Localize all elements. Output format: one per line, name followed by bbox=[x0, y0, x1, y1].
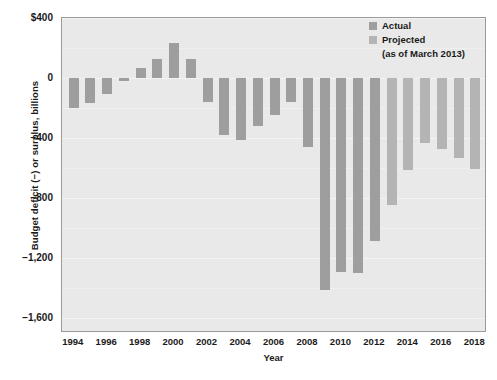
bar-2004 bbox=[236, 78, 246, 140]
x-axis-tick-label: 2008 bbox=[296, 336, 317, 347]
x-axis-tick-label: 2012 bbox=[363, 336, 384, 347]
bar-2013 bbox=[387, 78, 397, 205]
x-axis-tick-label: 2006 bbox=[263, 336, 284, 347]
x-axis-tick-label: 2002 bbox=[196, 336, 217, 347]
legend-swatch-icon bbox=[369, 22, 377, 30]
x-axis-tick-label: 2016 bbox=[430, 336, 451, 347]
y-axis-tick-label: −1,200 bbox=[0, 252, 53, 263]
bar-2005 bbox=[253, 78, 263, 126]
y-axis-tick-label: −400 bbox=[0, 132, 53, 143]
y-axis-tick-label: −1,600 bbox=[0, 312, 53, 323]
legend-item-projected: Projected bbox=[369, 34, 465, 46]
x-axis-tick-label: 2018 bbox=[464, 336, 485, 347]
bar-1997 bbox=[119, 78, 129, 81]
gridline bbox=[62, 198, 485, 199]
bar-2015 bbox=[420, 78, 430, 143]
gridline-minor bbox=[62, 288, 485, 289]
legend-note: (as of March 2013) bbox=[382, 48, 465, 60]
x-axis-tick-label: 1996 bbox=[96, 336, 117, 347]
gridline bbox=[62, 318, 485, 319]
x-axis-title: Year bbox=[61, 352, 486, 363]
bar-2010 bbox=[336, 78, 346, 272]
bar-2008 bbox=[303, 78, 313, 147]
gridline-minor bbox=[62, 168, 485, 169]
bar-2001 bbox=[186, 59, 196, 78]
bar-2000 bbox=[169, 43, 179, 78]
bar-2009 bbox=[320, 78, 330, 290]
x-axis-tick-label: 2000 bbox=[163, 336, 184, 347]
bar-1998 bbox=[136, 68, 146, 78]
bar-2006 bbox=[270, 78, 280, 115]
y-axis-tick-label: $400 bbox=[0, 12, 53, 23]
x-axis-tick-label: 1994 bbox=[62, 336, 83, 347]
bar-2007 bbox=[286, 78, 296, 102]
bar-2018 bbox=[470, 78, 480, 169]
gridline bbox=[62, 18, 485, 19]
legend-label: Actual bbox=[382, 20, 411, 32]
legend-label: Projected bbox=[382, 34, 425, 46]
bar-2011 bbox=[353, 78, 363, 273]
bar-1999 bbox=[152, 59, 162, 78]
y-axis-tick-label: −800 bbox=[0, 192, 53, 203]
bar-2016 bbox=[437, 78, 447, 149]
bar-1994 bbox=[69, 78, 79, 108]
x-axis-tick-label: 2014 bbox=[397, 336, 418, 347]
x-axis-tick-labels: 1994199619982000200220042006200820102012… bbox=[61, 336, 486, 352]
bar-2002 bbox=[203, 78, 213, 102]
gridline-minor bbox=[62, 228, 485, 229]
bar-2003 bbox=[219, 78, 229, 135]
bar-2017 bbox=[454, 78, 464, 158]
legend-swatch-icon bbox=[369, 36, 377, 44]
y-axis-tick-label: 0 bbox=[0, 72, 53, 83]
x-axis-tick-label: 1998 bbox=[129, 336, 150, 347]
bar-2014 bbox=[403, 78, 413, 170]
legend-item-actual: Actual bbox=[369, 20, 465, 32]
bar-1995 bbox=[85, 78, 95, 103]
bar-2012 bbox=[370, 78, 380, 241]
gridline bbox=[62, 258, 485, 259]
x-axis-tick-label: 2010 bbox=[330, 336, 351, 347]
y-axis-tick-labels: $4000−400−800−1,200−1,600 bbox=[0, 0, 53, 380]
bar-1996 bbox=[102, 78, 112, 94]
plot-area bbox=[61, 17, 486, 332]
x-axis-tick-label: 2004 bbox=[229, 336, 250, 347]
chart-legend: ActualProjected(as of March 2013) bbox=[369, 20, 465, 60]
budget-deficit-chart: Budget deficit (−) or surplus, billions … bbox=[0, 0, 497, 380]
